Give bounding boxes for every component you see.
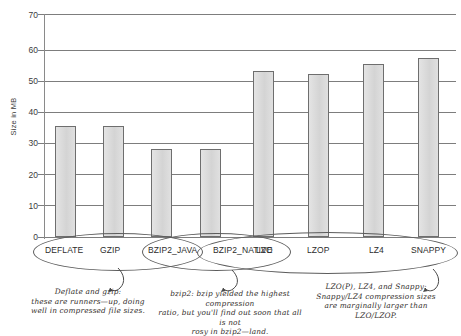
annotation-bzip2: bzip2: bzip yielded the highest compress… — [155, 289, 305, 336]
chart-screenshot: Size in MB 70 60 50 40 30 20 10 0 — [0, 0, 461, 336]
annotation-lzo-family: LZO(P), LZ4, and Snappy: Snappy/LZ4 comp… — [300, 282, 452, 320]
annotation-deflate-gzip: Deflate and gzip: these are runners—up, … — [18, 287, 158, 316]
